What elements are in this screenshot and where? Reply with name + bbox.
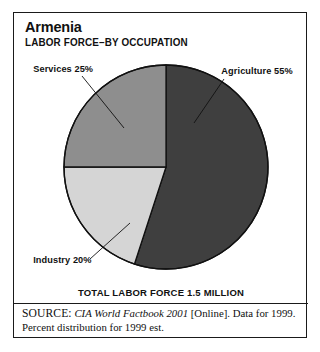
note-divider (14, 303, 308, 304)
total-labor-force-caption: TOTAL LABOR FORCE 1.5 MILLION (18, 287, 303, 298)
slice-label-industry: Industry 20% (33, 254, 92, 265)
slice-label-services: Services 25% (33, 63, 93, 74)
source-title: CIA World Factbook 2001 (74, 307, 188, 319)
pie-slice-services (64, 65, 166, 167)
source-label: SOURCE: (22, 307, 72, 320)
slice-label-agriculture: Agriculture 55% (221, 65, 293, 76)
figure-panel: Armenia LABOR FORCE–BY OCCUPATION Agricu… (13, 12, 307, 338)
source-note: SOURCE: CIA World Factbook 2001 [Online]… (22, 307, 300, 334)
